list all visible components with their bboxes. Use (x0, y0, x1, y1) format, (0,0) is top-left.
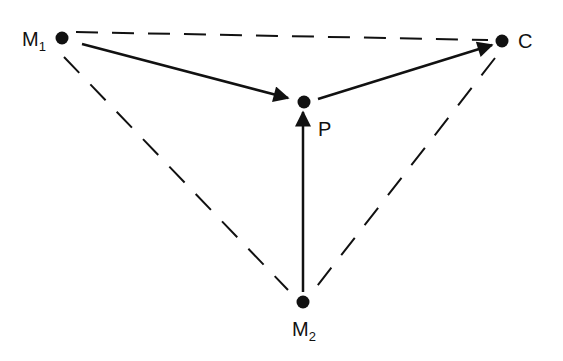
label-c: C (518, 30, 532, 52)
label-m1: M1 (22, 28, 46, 54)
node-c (496, 35, 509, 48)
diagram-canvas: M1 C P M2 (0, 0, 563, 361)
arrow-m1-to-p (82, 44, 288, 98)
dashed-edge-m1-m2 (64, 57, 288, 290)
dashed-edge-m1-c (76, 32, 488, 40)
node-m1 (56, 32, 69, 45)
arrow-p-to-c (318, 45, 492, 99)
node-m2 (297, 296, 310, 309)
label-p: P (318, 118, 331, 140)
node-p (298, 96, 311, 109)
label-m2: M2 (292, 318, 316, 344)
